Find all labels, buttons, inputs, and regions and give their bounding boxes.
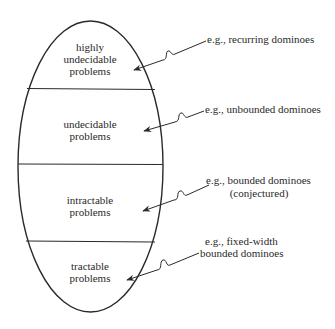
example-label-line: e.g., bounded dominoes: [206, 174, 311, 186]
divider-1: [27, 89, 155, 90]
region-label-line: tractable: [71, 260, 109, 272]
example-label-line: bounded dominoes: [200, 247, 283, 259]
region-label-line: problems: [70, 206, 111, 218]
example-label-line: e.g., recurring dominoes: [207, 33, 314, 45]
region-tractable: tractable problems: [70, 260, 111, 284]
example-fixed-width-bounded-dominoes: e.g., fixed-width bounded dominoes: [200, 235, 283, 259]
region-label-line: undecidable: [63, 53, 116, 65]
example-label-line: e.g., unbounded dominoes: [205, 103, 321, 115]
region-label-line: problems: [70, 272, 111, 284]
region-highly-undecidable: highly undecidable problems: [63, 41, 116, 77]
diagram-canvas: highly undecidable problems undecidable …: [0, 0, 335, 329]
region-undecidable: undecidable problems: [63, 118, 116, 142]
example-unbounded-dominoes: e.g., unbounded dominoes: [205, 103, 321, 115]
problem-hierarchy-diagram: highly undecidable problems undecidable …: [0, 0, 335, 329]
squiggle-arrow-2: [144, 111, 204, 131]
squiggle-arrow-4: [127, 253, 199, 280]
region-intractable: intractable problems: [67, 194, 114, 218]
example-label-line: e.g., fixed-width: [205, 235, 278, 247]
region-label-line: undecidable: [63, 118, 116, 130]
example-bounded-dominoes: e.g., bounded dominoes (conjectured): [206, 174, 311, 200]
divider-3: [26, 241, 155, 242]
divider-2: [18, 164, 163, 165]
region-label-line: problems: [70, 65, 111, 77]
region-label-line: problems: [70, 130, 111, 142]
squiggle-arrow-1: [134, 41, 206, 70]
region-label-line: intractable: [67, 194, 114, 206]
example-label-line: (conjectured): [230, 187, 289, 200]
region-label-line: highly: [76, 41, 105, 53]
example-recurring-dominoes: e.g., recurring dominoes: [207, 33, 314, 45]
squiggle-arrow-3: [143, 185, 209, 211]
